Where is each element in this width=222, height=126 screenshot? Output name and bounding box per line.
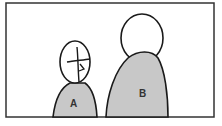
figure-b-label: B [139,88,146,99]
figure-a-label: A [70,98,77,109]
diagram-canvas: A B [0,0,222,126]
figure-a-head [60,41,90,83]
